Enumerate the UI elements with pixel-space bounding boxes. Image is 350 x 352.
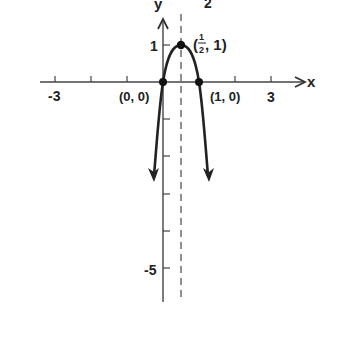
tick-label-neg3: -3 [48,88,61,104]
parabola-plot: y 2 x -3 3 1 -5 (0, 0) (1, 0) ( 1 2 , 1) [0,0,350,352]
vertex-point-label: ( 1 2 , 1) [193,32,227,55]
point-vertex [177,41,185,49]
svg-text:2: 2 [199,45,204,55]
point-origin [159,78,167,86]
point-right-root [195,78,203,86]
x-axis-label: x [307,73,316,90]
tick-label-1: 1 [150,38,158,54]
top-partial-label: 2 [204,0,212,11]
y-axis-label: y [154,0,163,12]
right-root-point-label: (1, 0) [210,89,240,104]
origin-point-label: (0, 0) [119,89,149,104]
svg-text:, 1): , 1) [205,36,227,53]
tick-label-neg5: -5 [144,262,157,278]
x-axis [40,76,305,87]
tick-label-3: 3 [267,89,275,105]
svg-text:(: ( [193,36,198,53]
svg-text:1: 1 [199,32,204,42]
